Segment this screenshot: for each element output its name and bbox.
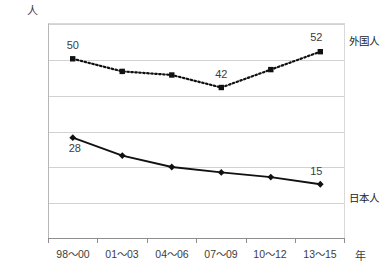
x-tick-0 (48, 238, 49, 243)
gridline-60 (49, 24, 344, 25)
x-category-5: 13〜15 (303, 246, 336, 261)
x-tick-6 (344, 238, 345, 243)
point-label-japanese-last: 15 (310, 165, 322, 177)
x-axis-unit-label: 年 (355, 247, 366, 263)
x-axis-line: 98〜00 01〜03 04〜06 07〜09 10〜12 13〜15 (48, 238, 345, 239)
y-axis-unit-label: 人 (27, 2, 38, 18)
point-label-foreign-last: 52 (310, 31, 322, 43)
gridline-30 (49, 132, 344, 133)
x-category-1: 01〜03 (105, 246, 138, 261)
x-category-3: 07〜09 (204, 246, 237, 261)
series-name-foreign: 外国人 (349, 33, 379, 48)
point-label-foreign-first: 50 (67, 39, 79, 51)
x-tick-5 (295, 238, 296, 243)
point-label-japanese-first: 28 (69, 142, 81, 154)
plot-area: 60 50 40 30 20 10 0 (48, 23, 345, 238)
series-name-japanese: 日本人 (349, 190, 379, 205)
x-category-0: 98〜00 (56, 246, 89, 261)
gridline-50 (49, 60, 344, 61)
x-category-2: 04〜06 (155, 246, 188, 261)
x-tick-1 (97, 238, 98, 243)
x-tick-2 (147, 238, 148, 243)
gridline-40 (49, 96, 344, 97)
x-tick-3 (196, 238, 197, 243)
x-tick-4 (246, 238, 247, 243)
gridline-10 (49, 203, 344, 204)
point-label-foreign-min: 42 (215, 68, 227, 80)
gridline-20 (49, 167, 344, 168)
line-chart: 人 年 60 50 40 30 20 10 0 98〜00 01〜03 04〜0… (0, 0, 380, 272)
x-category-4: 10〜12 (253, 246, 286, 261)
